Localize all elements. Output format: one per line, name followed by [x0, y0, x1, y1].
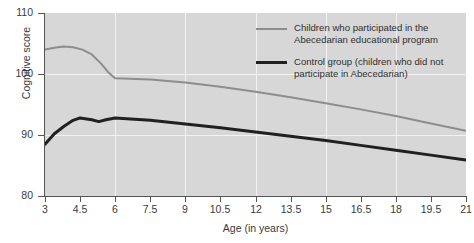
series-line-control — [45, 118, 466, 160]
x-tick-label: 19.5 — [411, 203, 451, 215]
legend-item-abecedarian: Children who participated in the Abeceda… — [256, 22, 471, 45]
cognitive-score-line-chart: Cognitive score Age (in years) 809010011… — [0, 0, 474, 243]
x-tick-label: 16.5 — [341, 203, 381, 215]
x-tick-label: 6 — [95, 203, 135, 215]
x-tick-mark — [150, 196, 151, 202]
x-tick-label: 21 — [446, 203, 474, 215]
x-tick-mark — [256, 196, 257, 202]
legend-swatch-control — [256, 61, 287, 64]
x-tick-label: 7.5 — [130, 203, 170, 215]
y-tick-mark — [38, 74, 45, 75]
y-tick-mark — [38, 196, 45, 197]
x-tick-mark — [291, 196, 292, 202]
x-tick-label: 18 — [376, 203, 416, 215]
x-tick-mark — [396, 196, 397, 202]
x-tick-mark — [220, 196, 221, 202]
legend: Children who participated in the Abeceda… — [256, 22, 471, 90]
y-axis-line — [44, 13, 45, 197]
x-tick-label: 12 — [236, 203, 276, 215]
x-tick-mark — [466, 196, 467, 202]
x-tick-label: 4.5 — [60, 203, 100, 215]
x-tick-mark — [361, 196, 362, 202]
y-tick-label: 100 — [0, 67, 33, 79]
x-tick-label: 9 — [165, 203, 205, 215]
y-tick-label: 80 — [0, 189, 33, 201]
legend-label-abecedarian: Children who participated in the Abeceda… — [294, 22, 471, 45]
x-tick-mark — [185, 196, 186, 202]
x-axis-title: Age (in years) — [45, 222, 466, 234]
x-tick-mark — [80, 196, 81, 202]
legend-label-control: Control group (children who did not part… — [294, 56, 471, 79]
x-tick-label: 10.5 — [200, 203, 240, 215]
y-tick-label: 110 — [0, 6, 33, 18]
x-tick-mark — [326, 196, 327, 202]
x-tick-mark — [115, 196, 116, 202]
x-tick-mark — [45, 196, 46, 202]
y-tick-label: 90 — [0, 128, 33, 140]
x-tick-label: 13.5 — [271, 203, 311, 215]
legend-swatch-abecedarian — [256, 28, 287, 30]
x-tick-label: 3 — [25, 203, 65, 215]
x-tick-mark — [431, 196, 432, 202]
legend-item-control: Control group (children who did not part… — [256, 56, 471, 79]
y-tick-mark — [38, 13, 45, 14]
x-tick-label: 15 — [306, 203, 346, 215]
y-tick-mark — [38, 135, 45, 136]
